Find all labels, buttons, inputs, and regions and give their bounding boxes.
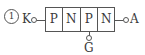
figure-number-badge: 1 — [4, 9, 19, 24]
anode-label: A — [130, 12, 139, 26]
layer-4: N — [98, 7, 116, 32]
anode-terminal-icon — [123, 17, 129, 23]
cathode-label: K — [22, 12, 31, 26]
gate-label: G — [84, 41, 94, 55]
anode-wire — [115, 20, 123, 21]
layer-1: P — [45, 7, 63, 32]
layer-2: N — [63, 7, 81, 32]
layer-3: P — [80, 7, 98, 32]
cathode-wire — [37, 20, 45, 21]
